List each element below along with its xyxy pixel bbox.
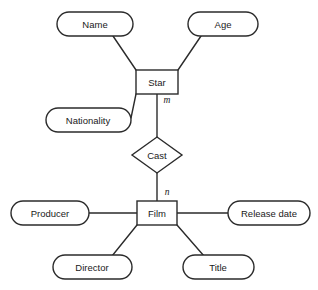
attribute-title-label: Title bbox=[209, 262, 227, 273]
attribute-nationality-label: Nationality bbox=[66, 115, 111, 126]
attribute-age-label: Age bbox=[215, 19, 232, 30]
attribute-release-date[interactable]: Release date bbox=[228, 201, 310, 225]
entity-film[interactable]: Film bbox=[137, 201, 177, 225]
relationship-cast-label: Cast bbox=[147, 150, 167, 161]
entity-star[interactable]: Star bbox=[136, 70, 178, 94]
attribute-producer[interactable]: Producer bbox=[11, 201, 89, 225]
attribute-age[interactable]: Age bbox=[188, 12, 258, 36]
connector-nationality-star bbox=[131, 94, 136, 118]
cardinality-label-n: n bbox=[165, 187, 170, 197]
attribute-producer-label: Producer bbox=[31, 208, 70, 219]
entity-star-label: Star bbox=[148, 77, 165, 88]
entity-film-label: Film bbox=[148, 208, 166, 219]
attribute-director-label: Director bbox=[75, 262, 108, 273]
attribute-name-label: Name bbox=[82, 19, 107, 30]
cardinality-label-m: m bbox=[164, 95, 171, 105]
connector-age-star bbox=[178, 36, 201, 70]
attribute-director[interactable]: Director bbox=[53, 255, 132, 279]
connector-film-director bbox=[112, 225, 137, 256]
attribute-release-date-label: Release date bbox=[241, 208, 297, 219]
connector-film-title bbox=[177, 225, 204, 256]
relationship-cast[interactable]: Cast bbox=[132, 137, 182, 173]
attribute-name[interactable]: Name bbox=[57, 12, 133, 36]
attribute-title[interactable]: Title bbox=[183, 255, 254, 279]
er-diagram-canvas: Name Age Nationality Producer Release da… bbox=[0, 0, 318, 290]
attribute-nationality[interactable]: Nationality bbox=[46, 108, 131, 132]
connector-name-star bbox=[113, 36, 136, 70]
